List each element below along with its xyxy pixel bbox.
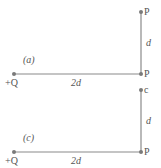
panel-c-charge-label: +Q — [5, 156, 18, 166]
panel-c-corner-point-dot — [139, 150, 143, 154]
panel-a-top-point-label: P — [144, 7, 150, 17]
panel-a-tag-text: (a) — [23, 54, 35, 65]
panel-a-charge-label: +Q — [5, 78, 18, 88]
panel-a-horizontal-length-label: 2d — [71, 78, 81, 88]
panel-c-top-point-label: c — [144, 85, 148, 95]
panel-c-horizontal-length-label: 2d — [71, 156, 81, 166]
panel-c-charge-dot — [12, 150, 16, 154]
panel-c-corner-point-label: P — [144, 147, 150, 157]
panel-c-tag: (c) — [23, 133, 34, 143]
panel-c-vertical-length-label: d — [146, 116, 151, 126]
panel-a-tag: (a) — [23, 55, 35, 65]
panel-a-corner-point-label: P — [144, 69, 150, 79]
panel-a-charge-dot — [12, 72, 16, 76]
panel-a-corner-point-dot — [139, 72, 143, 76]
panel-c-top-point-dot — [139, 88, 143, 92]
panel-a-vertical-length-label: d — [146, 38, 151, 48]
panel-a-top-point-dot — [139, 10, 143, 14]
